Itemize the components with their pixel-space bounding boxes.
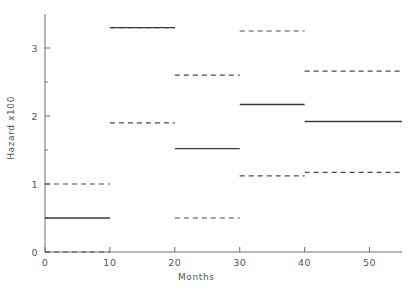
- x-tick-label: 20: [168, 257, 181, 268]
- chart-plot-area: 010203040500123: [0, 0, 416, 293]
- x-tick-label: 30: [233, 257, 246, 268]
- x-tick-label: 40: [298, 257, 311, 268]
- x-axis-label: Months: [178, 272, 215, 282]
- chart-figure: 010203040500123 Hazard x100 Months: [0, 0, 416, 293]
- y-tick-label: 3: [31, 43, 38, 54]
- x-tick-label: 0: [42, 257, 49, 268]
- y-tick-label: 2: [31, 111, 38, 122]
- x-tick-label: 50: [363, 257, 376, 268]
- y-tick-label: 1: [31, 179, 38, 190]
- y-tick-label: 0: [31, 247, 38, 258]
- x-tick-label: 10: [103, 257, 116, 268]
- y-axis-label: Hazard x100: [6, 96, 16, 160]
